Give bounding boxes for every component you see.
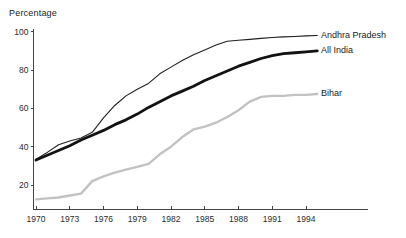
series-line-all-india: [36, 51, 317, 160]
x-axis-tick-label: 1979: [128, 214, 147, 224]
series-label-all-india: All India: [321, 45, 353, 56]
x-axis-tick-label: 1994: [297, 214, 316, 224]
series-label-bihar: Bihar: [321, 88, 342, 99]
x-axis-tick-label: 1991: [263, 214, 282, 224]
y-axis-tick-label: 40: [19, 142, 29, 152]
x-axis-tick-label: 1970: [27, 214, 46, 224]
x-axis-tick-label: 1973: [60, 214, 79, 224]
x-axis-tick-label: 1982: [162, 214, 181, 224]
y-axis-tick-label: 20: [19, 180, 29, 190]
y-axis-title: Percentage: [9, 8, 57, 18]
x-axis-tick-label: 1976: [94, 214, 113, 224]
series-line-bihar: [36, 94, 317, 199]
series-label-andhra-pradesh: Andhra Pradesh: [321, 30, 386, 41]
y-axis-tick-label: 60: [19, 103, 29, 113]
x-axis-tick-label: 1985: [195, 214, 214, 224]
y-axis-tick-label: 100: [14, 27, 28, 37]
y-axis-tick-label: 80: [19, 65, 29, 75]
line-chart: Percentage 20406080100197019731976197919…: [0, 0, 406, 238]
x-axis-tick-label: 1988: [229, 214, 248, 224]
